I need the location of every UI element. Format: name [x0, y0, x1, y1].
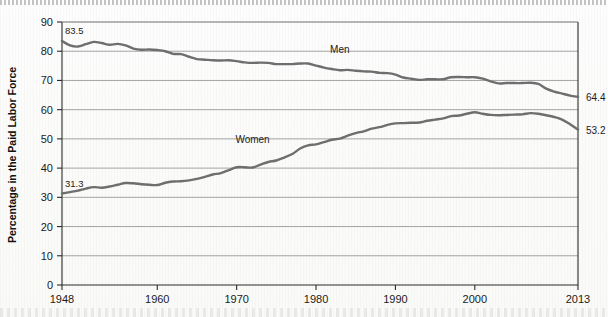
y-tick-label-50: 50 [41, 133, 53, 145]
x-tick-label-1960: 1960 [145, 293, 169, 305]
men-series-label: Men [330, 44, 349, 55]
women-start-value: 31.3 [65, 178, 84, 189]
y-tick-label-40: 40 [41, 162, 53, 174]
men-start-value: 83.5 [65, 25, 84, 36]
y-tick-label-20: 20 [41, 221, 53, 233]
y-tick-label-0: 0 [47, 279, 53, 291]
axes-group [62, 22, 578, 285]
y-tick-label-60: 60 [41, 104, 53, 116]
x-tick-label-1948: 1948 [50, 293, 74, 305]
data-series-group [62, 41, 578, 194]
y-tick-label-10: 10 [41, 250, 53, 262]
x-tick-label-1980: 1980 [304, 293, 328, 305]
y-tick-label-80: 80 [41, 45, 53, 57]
x-axis-ticks: 1948196019701980199020002013 [50, 285, 590, 305]
women-end-value: 53.2 [586, 125, 606, 136]
x-tick-label-2013: 2013 [566, 293, 590, 305]
y-tick-label-90: 90 [41, 16, 53, 28]
x-tick-label-1970: 1970 [224, 293, 248, 305]
series-line-men [62, 41, 578, 97]
chart-canvas: 0102030405060708090 19481960197019801990… [0, 0, 608, 317]
y-tick-label-70: 70 [41, 74, 53, 86]
gridlines-group [62, 22, 578, 256]
line-chart-figure: 0102030405060708090 19481960197019801990… [0, 0, 608, 317]
x-tick-label-2000: 2000 [463, 293, 487, 305]
y-axis-title: Percentage in the Paid Labor Force [6, 67, 18, 243]
women-series-label: Women [235, 134, 269, 145]
men-end-value: 64.4 [586, 92, 606, 103]
series-line-women [62, 112, 578, 193]
y-axis-ticks: 0102030405060708090 [41, 16, 62, 291]
x-tick-label-1990: 1990 [383, 293, 407, 305]
y-tick-label-30: 30 [41, 191, 53, 203]
